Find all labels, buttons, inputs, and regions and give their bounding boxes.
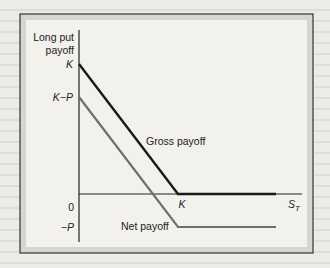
y-tick-minus-P: −P — [61, 221, 74, 233]
y-tick-zero: 0 — [68, 201, 74, 213]
y-tick-K: K — [66, 58, 74, 70]
y-axis-label-line2: payoff — [46, 44, 74, 56]
x-axis-label-main: S — [288, 198, 295, 210]
gross-payoff-label: Gross payoff — [146, 135, 205, 147]
y-tick-K-minus-P: K−P — [53, 91, 73, 103]
net-payoff-label: Net payoff — [121, 220, 169, 232]
x-tick-K: K — [178, 198, 186, 210]
y-axis-label-line1: Long put — [33, 31, 74, 43]
long-put-payoff-chart: Long put payoff K K−P 0 −P K ST Gross pa… — [0, 0, 330, 268]
